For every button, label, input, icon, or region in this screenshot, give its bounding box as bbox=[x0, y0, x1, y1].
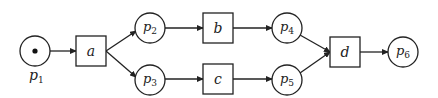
transition-label: c bbox=[214, 71, 222, 87]
place-p6: p6 bbox=[388, 37, 418, 67]
place-p5: p5 bbox=[272, 65, 302, 95]
transition-c: c bbox=[203, 64, 233, 94]
place-label: p1 bbox=[29, 67, 44, 85]
token-icon bbox=[32, 48, 37, 53]
arc-a-p3 bbox=[106, 51, 136, 77]
arc-p5-d bbox=[300, 52, 330, 73]
transition-label: d bbox=[341, 44, 350, 60]
arc-a-p2 bbox=[106, 31, 136, 51]
place-p4: p4 bbox=[272, 13, 302, 43]
transition-b: b bbox=[203, 13, 233, 43]
transition-label: b bbox=[214, 20, 223, 36]
transition-d: d bbox=[330, 37, 360, 67]
place-p1: p1 bbox=[20, 36, 50, 85]
transition-label: a bbox=[87, 43, 95, 59]
transition-a: a bbox=[76, 36, 106, 66]
place-p2: p2 bbox=[135, 13, 165, 43]
diagram-svg: p1 p2 p3 p4 p5 p6 a b bbox=[0, 0, 438, 98]
arc-p4-d bbox=[300, 35, 330, 52]
place-p3: p3 bbox=[135, 65, 165, 95]
petri-net-diagram: p1 p2 p3 p4 p5 p6 a b bbox=[0, 0, 438, 98]
